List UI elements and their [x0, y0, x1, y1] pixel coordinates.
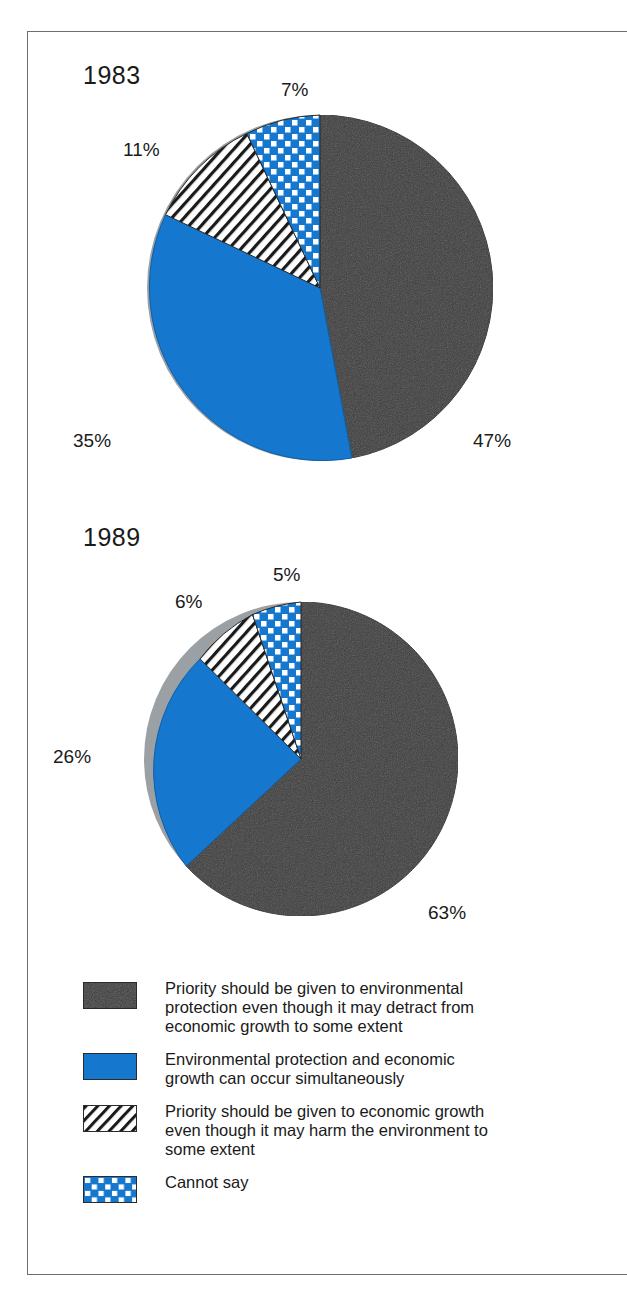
legend-label-environmental-protection: Priority should be given to environmenta… — [165, 979, 503, 1036]
pie-1989 — [141, 599, 461, 919]
legend-label-both-simultaneously: Environmental protection and economic gr… — [165, 1050, 503, 1088]
pie-slice-environmental-protection — [320, 115, 493, 458]
legend-item-environmental-protection: Priority should be given to environmenta… — [83, 979, 503, 1036]
chart-1983: 1983 — [28, 32, 598, 502]
pct-label-1983-economic-growth: 11% — [123, 139, 160, 161]
legend-swatch-blue-checkerboard — [83, 1176, 137, 1203]
chart-1989: 1989 — [28, 509, 598, 949]
pct-label-1989-economic-growth: 6% — [175, 591, 202, 613]
pct-label-1983-environmental-protection: 47% — [473, 430, 511, 452]
legend-item-cannot-say: Cannot say — [83, 1173, 503, 1203]
pct-label-1983-cannot-say: 7% — [281, 79, 308, 101]
chart-title-1983: 1983 — [83, 61, 141, 90]
chart-title-1989: 1989 — [83, 523, 141, 552]
pie-1983 — [144, 112, 496, 464]
legend-swatch-solid-dark-gray — [83, 982, 137, 1009]
legend-swatch-solid-blue — [83, 1053, 137, 1080]
legend-item-both-simultaneously: Environmental protection and economic gr… — [83, 1050, 503, 1088]
chart-legend: Priority should be given to environmenta… — [83, 979, 503, 1217]
pct-label-1989-environmental-protection: 63% — [428, 902, 466, 924]
figure-frame: 1983 — [27, 31, 627, 1275]
pct-label-1989-both-simultaneously: 26% — [53, 746, 91, 768]
legend-label-cannot-say: Cannot say — [165, 1173, 248, 1192]
legend-swatch-diagonal-hatch — [83, 1105, 137, 1132]
pct-label-1983-both-simultaneously: 35% — [73, 430, 111, 452]
pct-label-1989-cannot-say: 5% — [273, 564, 300, 586]
legend-item-economic-growth: Priority should be given to economic gro… — [83, 1102, 503, 1159]
legend-label-economic-growth: Priority should be given to economic gro… — [165, 1102, 503, 1159]
